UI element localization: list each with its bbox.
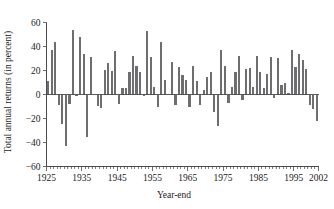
bar-1926 <box>47 81 49 95</box>
bar-1931 <box>65 95 67 147</box>
x-tick-label-1965: 1965 <box>178 173 197 183</box>
x-tick-label-1935: 1935 <box>72 173 91 183</box>
x-tick-label-1995: 1995 <box>284 173 303 183</box>
bar-1942 <box>104 70 106 94</box>
bar-1954 <box>146 31 148 94</box>
bar-1971 <box>206 77 208 94</box>
bar-1945 <box>114 51 116 95</box>
y-tick-label-0: 0 <box>36 90 41 100</box>
bar-1975 <box>220 50 222 95</box>
bar-1951 <box>135 66 137 95</box>
y-axis-ticks <box>43 23 47 167</box>
bar-1986 <box>259 72 261 94</box>
y-tick-label--60: −60 <box>26 162 41 172</box>
bar-1958 <box>160 42 162 94</box>
bar-1980 <box>238 56 240 95</box>
bar-1970 <box>203 90 205 95</box>
bar-1964 <box>181 75 183 95</box>
bar-1976 <box>224 66 226 95</box>
bar-1932 <box>68 95 70 105</box>
bar-1981 <box>241 95 243 101</box>
bar-1956 <box>153 87 155 95</box>
bar-1990 <box>273 95 275 99</box>
bar-1979 <box>234 72 236 94</box>
bar-1974 <box>217 95 219 127</box>
bar-1978 <box>231 87 233 95</box>
x-tick-label-1985: 1985 <box>249 173 268 183</box>
bar-1941 <box>100 95 102 109</box>
annual-returns-bar-chart: −60−40−200204060 19251935194519551965197… <box>0 0 334 209</box>
bar-1965 <box>185 80 187 95</box>
bar-2001 <box>312 95 314 109</box>
bar-1996 <box>294 67 296 95</box>
bar-1947 <box>121 88 123 95</box>
bar-1955 <box>150 57 152 95</box>
bar-1927 <box>51 50 53 95</box>
bar-1935 <box>79 37 81 94</box>
bar-1950 <box>132 56 134 94</box>
bar-1946 <box>118 95 120 105</box>
bar-1991 <box>277 58 279 95</box>
y-tick-label--40: −40 <box>26 138 41 148</box>
bar-1928 <box>54 42 56 94</box>
chart-axes <box>47 23 319 167</box>
bar-1929 <box>58 95 60 105</box>
x-axis-title: Year-end <box>157 190 191 200</box>
x-axis-tick-labels: 192519351945195519651975198519952002 <box>37 173 328 183</box>
bar-1967 <box>192 66 194 95</box>
bar-1998 <box>302 60 304 94</box>
bar-1959 <box>164 80 166 94</box>
chart-figure: −60−40−200204060 19251935194519551965197… <box>0 0 334 209</box>
bar-1977 <box>227 95 229 104</box>
bar-1989 <box>270 57 272 95</box>
bar-1948 <box>125 88 127 95</box>
bar-1963 <box>178 67 180 94</box>
bar-1943 <box>107 63 109 94</box>
bar-1972 <box>210 72 212 95</box>
x-tick-label-1955: 1955 <box>143 173 162 183</box>
bar-1957 <box>157 95 159 108</box>
bar-1944 <box>111 71 113 95</box>
y-axis-tick-labels: −60−40−200204060 <box>26 18 41 172</box>
y-tick-label--20: −20 <box>26 114 41 124</box>
x-tick-label-1945: 1945 <box>108 173 127 183</box>
y-tick-label-60: 60 <box>31 18 41 28</box>
bar-1992 <box>280 85 282 94</box>
bar-1973 <box>213 95 215 113</box>
bar-1993 <box>284 83 286 95</box>
bar-1983 <box>249 68 251 95</box>
bar-1938 <box>90 57 92 94</box>
bar-1962 <box>174 95 176 105</box>
bar-1966 <box>188 95 190 107</box>
y-tick-label-20: 20 <box>31 66 41 76</box>
bar-1997 <box>298 54 300 94</box>
bar-1936 <box>83 54 85 95</box>
y-tick-label-40: 40 <box>31 42 41 52</box>
bar-1940 <box>97 95 99 107</box>
bar-1999 <box>305 69 307 94</box>
bar-series <box>47 30 318 147</box>
bar-1995 <box>291 50 293 95</box>
bar-1961 <box>171 62 173 94</box>
bar-1968 <box>196 81 198 94</box>
bar-1984 <box>252 87 254 95</box>
x-axis-ticks <box>47 167 319 172</box>
bar-1949 <box>128 72 130 95</box>
y-axis-title: Total annual returns (in percent) <box>3 31 14 153</box>
bar-1930 <box>61 95 63 125</box>
bar-1985 <box>256 56 258 95</box>
bar-1987 <box>263 88 265 94</box>
bar-1982 <box>245 69 247 95</box>
bar-1937 <box>86 95 88 137</box>
bar-2002 <box>316 95 318 122</box>
x-tick-label-2002: 2002 <box>309 173 328 183</box>
bar-1988 <box>266 74 268 94</box>
bar-2000 <box>309 95 311 106</box>
bar-1952 <box>139 72 141 94</box>
x-tick-label-1925: 1925 <box>37 173 56 183</box>
x-tick-label-1975: 1975 <box>214 173 233 183</box>
bar-1933 <box>72 30 74 95</box>
bar-1969 <box>199 95 201 105</box>
